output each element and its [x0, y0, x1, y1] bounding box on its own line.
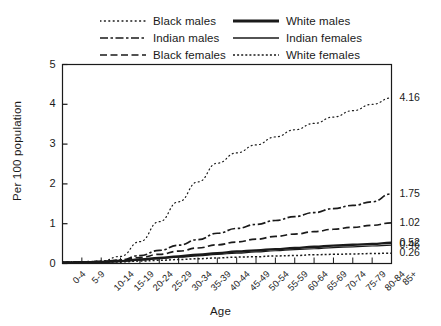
end-label-black-males: 4.16	[400, 91, 420, 103]
end-label-white-females: 0.26	[400, 246, 420, 258]
series-line-black-males	[63, 98, 392, 262]
y-tick-label: 3	[38, 137, 56, 149]
y-tick-label: 5	[38, 58, 56, 70]
series-line-black-females	[63, 223, 392, 262]
y-tick-label: 0	[38, 257, 56, 269]
y-tick-label: 1	[38, 217, 56, 229]
y-tick-label: 2	[38, 177, 56, 189]
chart-figure: Black males White males Indian males Ind…	[0, 0, 441, 326]
end-label-black-females: 1.02	[400, 216, 420, 228]
end-label-indian-males: 1.75	[400, 187, 420, 199]
y-tick-label: 4	[38, 97, 56, 109]
